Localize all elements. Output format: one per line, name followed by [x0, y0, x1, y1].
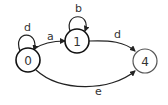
edge-1-to-1: b — [69, 2, 86, 31]
state-label-4: 4 — [141, 55, 149, 69]
edge-0-to-1: a — [34, 30, 65, 49]
edge-label-0-1: a — [47, 30, 54, 43]
state-label-0: 0 — [24, 54, 32, 68]
state-node-4: 4 — [133, 49, 157, 73]
edge-0-to-0: d — [19, 21, 35, 51]
state-diagram: d a b d e 0 1 — [0, 0, 168, 105]
edge-label-0-4: e — [95, 85, 102, 98]
edge-0-to-4: e — [36, 70, 135, 98]
state-diagram-canvas: d a b d e 0 1 — [0, 0, 168, 105]
state-node-0: 0 — [16, 48, 40, 72]
edge-1-to-4: d — [89, 28, 135, 51]
state-label-1: 1 — [73, 35, 81, 49]
edge-label-1-1: b — [75, 2, 82, 15]
edge-label-0-0: d — [24, 21, 31, 34]
edge-label-1-4: d — [114, 28, 121, 41]
state-node-1: 1 — [65, 29, 89, 53]
